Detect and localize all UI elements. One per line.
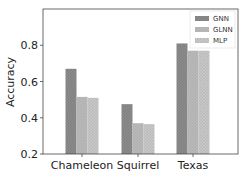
- legend-label-glnn: GLNN: [213, 26, 233, 34]
- x-tick-label: Squirrel: [117, 159, 159, 172]
- bar-chart: 0.20.40.60.8 ChameleonSquirrelTexas Accu…: [0, 0, 247, 175]
- bar-chameleon-mlp: [88, 98, 99, 154]
- y-tick-label: 0.4: [21, 112, 39, 125]
- bar-chameleon-glnn: [77, 97, 88, 154]
- legend-label-gnn: GNN: [213, 15, 229, 23]
- legend-swatch-glnn: [195, 27, 209, 32]
- bar-chameleon-gnn: [66, 69, 77, 154]
- legend-swatch-mlp: [195, 38, 209, 43]
- bar-squirrel-mlp: [144, 124, 155, 154]
- bar-squirrel-gnn: [122, 104, 133, 154]
- y-tick-label: 0.8: [21, 39, 39, 52]
- x-axis: ChameleonSquirrelTexas: [51, 154, 209, 172]
- x-tick-label: Texas: [177, 159, 209, 172]
- y-tick-label: 0.6: [21, 76, 39, 89]
- x-tick-label: Chameleon: [51, 159, 113, 172]
- y-tick-label: 0.2: [21, 148, 39, 161]
- bars-group: [66, 43, 210, 154]
- bar-squirrel-glnn: [133, 123, 144, 154]
- bar-texas-mlp: [199, 51, 210, 154]
- bar-texas-gnn: [177, 43, 188, 154]
- y-axis: 0.20.40.60.8: [21, 39, 44, 161]
- legend: GNNGLNNMLP: [190, 11, 235, 48]
- legend-label-mlp: MLP: [213, 37, 227, 45]
- y-axis-label: Accuracy: [4, 56, 17, 107]
- bar-texas-glnn: [188, 51, 199, 154]
- legend-swatch-gnn: [195, 16, 209, 21]
